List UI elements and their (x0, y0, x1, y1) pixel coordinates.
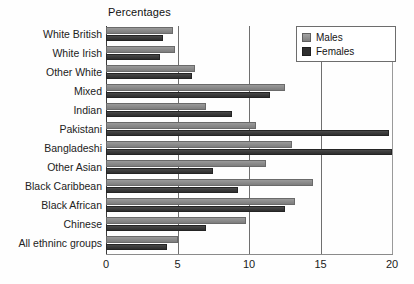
bar-males (106, 103, 206, 109)
chart-row: Black African (0, 197, 414, 215)
chart-row: All ethninc groups (0, 235, 414, 253)
bar-females (106, 187, 238, 193)
x-tick-label: 0 (103, 258, 109, 270)
bar-males (106, 65, 195, 71)
bar-males (106, 198, 295, 204)
chart-row: Mixed (0, 83, 414, 101)
chart-row: Other Asian (0, 159, 414, 177)
x-tick-label: 5 (174, 258, 180, 270)
chart-row: White Irish (0, 45, 414, 63)
x-tick-label: 10 (243, 258, 255, 270)
category-label: Bangladeshi (2, 140, 102, 158)
category-label: Pakistani (2, 121, 102, 139)
bar-females (106, 111, 232, 117)
x-axis-line (106, 254, 393, 255)
x-tick-label: 15 (314, 258, 326, 270)
x-tick-label: 20 (386, 258, 398, 270)
bar-males (106, 27, 173, 33)
bar-males (106, 122, 256, 128)
chart-row: Pakistani (0, 121, 414, 139)
bar-females (106, 149, 392, 155)
bar-males (106, 160, 266, 166)
category-label: All ethninc groups (2, 235, 102, 253)
category-label: Chinese (2, 216, 102, 234)
bar-males (106, 84, 285, 90)
chart-row: Chinese (0, 216, 414, 234)
bar-females (106, 244, 167, 250)
bar-females (106, 168, 213, 174)
bar-males (106, 179, 313, 185)
bar-males (106, 46, 175, 52)
chart-row: Bangladeshi (0, 140, 414, 158)
bar-females (106, 73, 192, 79)
chart-row: White British (0, 26, 414, 44)
category-label: White British (2, 26, 102, 44)
chart-row: Indian (0, 102, 414, 120)
category-label: Mixed (2, 83, 102, 101)
bar-females (106, 54, 160, 60)
category-label: Black Caribbean (2, 178, 102, 196)
bar-males (106, 236, 178, 242)
category-label: Other Asian (2, 159, 102, 177)
category-label: Indian (2, 102, 102, 120)
bar-females (106, 206, 285, 212)
category-label: White Irish (2, 45, 102, 63)
bar-chart: Percentages Males Females White BritishW… (0, 0, 414, 284)
chart-title: Percentages (108, 6, 171, 18)
bar-males (106, 141, 292, 147)
chart-row: Other White (0, 64, 414, 82)
bar-females (106, 92, 270, 98)
category-label: Other White (2, 64, 102, 82)
bar-males (106, 217, 246, 223)
category-label: Black African (2, 197, 102, 215)
chart-row: Black Caribbean (0, 178, 414, 196)
bar-females (106, 225, 206, 231)
bar-females (106, 130, 389, 136)
bar-females (106, 35, 163, 41)
